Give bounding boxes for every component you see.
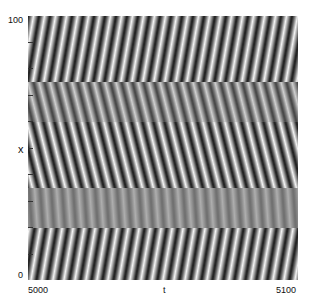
y-axis-title: x [18,144,24,154]
x-axis-title: t [163,285,166,295]
y-tick [28,95,33,96]
y-tick [28,227,33,228]
x-axis-max-label: 5100 [276,285,296,295]
spacetime-heatmap [28,16,298,280]
y-tick [28,68,33,69]
x-axis-min-label: 5000 [28,285,48,295]
y-axis-min-label: 0 [18,270,23,280]
y-axis-max-label: 100 [8,15,23,25]
y-tick [28,254,33,255]
y-tick [28,42,33,43]
y-tick [28,121,33,122]
y-tick [28,148,33,149]
y-tick [28,174,33,175]
heatmap-canvas [28,16,298,280]
y-tick [28,201,33,202]
